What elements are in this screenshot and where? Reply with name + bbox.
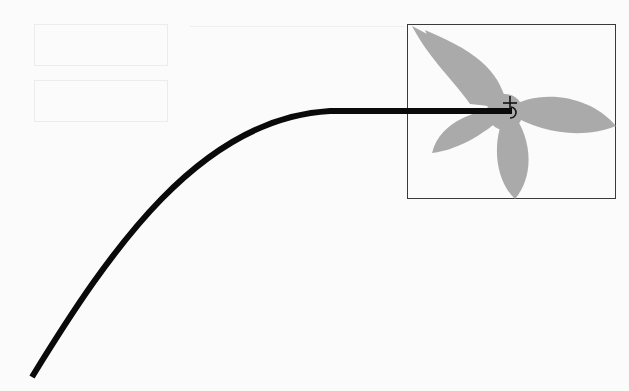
overlay-graphics (0, 0, 629, 391)
drawing-canvas[interactable] (0, 0, 629, 391)
